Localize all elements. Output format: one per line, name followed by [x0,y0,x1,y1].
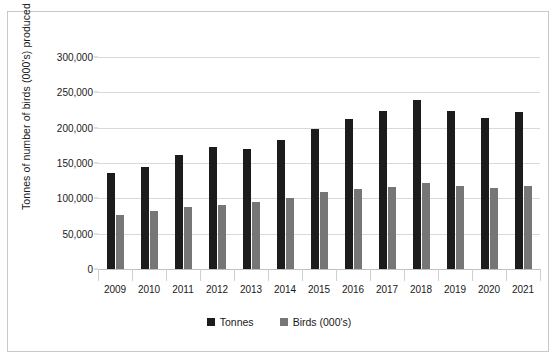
bar-birds-2021 [524,186,532,269]
bar-tonnes-2015 [311,129,319,269]
y-axis-title: Tonnes of number of birds (000's) produc… [20,10,32,210]
bar-birds-2018 [422,183,430,269]
bar-tonnes-2021 [515,112,523,269]
bar-birds-2011 [184,207,192,269]
bar-tonnes-2011 [175,155,183,269]
bar-tonnes-2017 [379,111,387,269]
legend-swatch-icon-tonnes [207,318,215,326]
bar-group [234,57,268,269]
x-tick-mark [132,269,133,281]
x-tick-label-2021: 2021 [500,284,546,295]
legend-item-birds: Birds (000's) [280,316,352,328]
bar-birds-2019 [456,186,464,269]
chart-legend: Tonnes Birds (000's) [8,316,550,328]
bar-group [472,57,506,269]
x-tick-mark [438,269,439,281]
bar-birds-2017 [388,187,396,269]
y-tick-label: 300,000 [15,52,93,63]
chart-frame: Tonnes of number of birds (000's) produc… [7,11,549,352]
bar-group [268,57,302,269]
bar-birds-2020 [490,188,498,269]
x-tick-mark [98,269,99,281]
bar-group [404,57,438,269]
x-tick-mark [404,269,405,281]
bar-tonnes-2009 [107,173,115,269]
y-tick-label: 250,000 [15,87,93,98]
legend-item-tonnes: Tonnes [207,316,254,328]
bar-birds-2009 [116,215,124,269]
x-tick-mark [540,269,541,281]
bar-group [132,57,166,269]
x-axis-line [98,269,540,270]
bar-group [438,57,472,269]
bar-tonnes-2016 [345,119,353,269]
x-tick-mark [234,269,235,281]
bar-tonnes-2018 [413,100,421,269]
legend-swatch-icon-birds [280,318,288,326]
legend-label-tonnes: Tonnes [220,316,254,328]
bar-tonnes-2012 [209,147,217,269]
x-tick-mark [302,269,303,281]
x-tick-mark [336,269,337,281]
bar-birds-2015 [320,192,328,269]
bar-tonnes-2013 [243,149,251,269]
bar-birds-2016 [354,189,362,269]
bar-tonnes-2010 [141,167,149,269]
plot-area: 050,000100,000150,000200,000250,000300,0… [98,57,540,269]
bar-birds-2014 [286,198,294,269]
x-tick-mark [370,269,371,281]
legend-label-birds: Birds (000's) [293,316,352,328]
x-tick-mark [506,269,507,281]
bar-tonnes-2019 [447,111,455,269]
y-tick-label: 0 [15,264,93,275]
y-tick-label: 100,000 [15,193,93,204]
x-tick-mark [472,269,473,281]
bar-birds-2010 [150,211,158,269]
bar-birds-2012 [218,205,226,269]
bars-layer [98,57,540,269]
x-tick-mark [268,269,269,281]
bar-birds-2013 [252,202,260,269]
x-tick-mark [200,269,201,281]
y-tick-label: 200,000 [15,122,93,133]
bar-group [506,57,540,269]
bar-group [370,57,404,269]
bar-group [166,57,200,269]
y-tick-label: 150,000 [15,158,93,169]
bar-group [336,57,370,269]
bar-group [302,57,336,269]
x-tick-mark [166,269,167,281]
bar-group [200,57,234,269]
bar-tonnes-2020 [481,118,489,269]
bar-group [98,57,132,269]
bar-tonnes-2014 [277,140,285,269]
y-tick-label: 50,000 [15,228,93,239]
